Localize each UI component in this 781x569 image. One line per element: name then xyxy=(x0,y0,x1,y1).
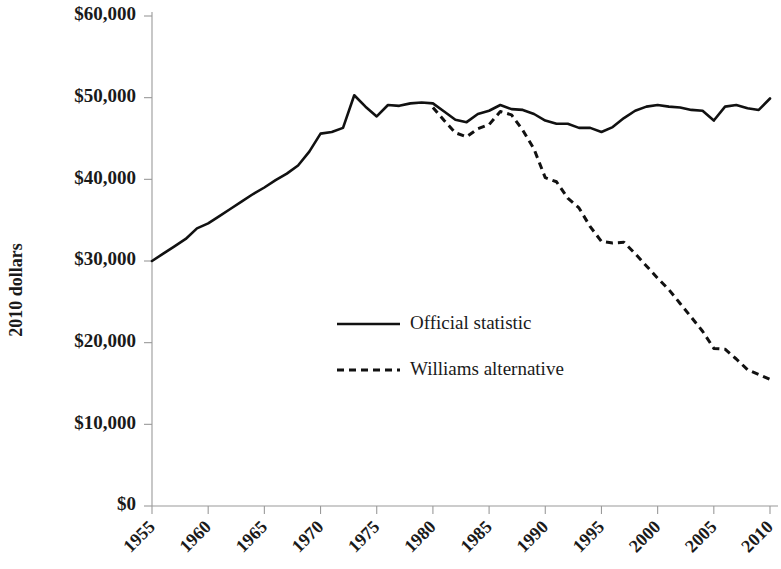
x-axis-tick-label: 2005 xyxy=(681,517,721,557)
legend-label-williams-alternative: Williams alternative xyxy=(410,358,564,379)
x-axis-tick-label: 1965 xyxy=(232,517,272,557)
x-axis-tick-label: 1970 xyxy=(288,517,328,557)
x-axis-tick-label: 2010 xyxy=(737,517,777,557)
y-axis-tick-label: $10,000 xyxy=(74,412,136,433)
y-axis-labels: $0$10,000$20,000$30,000$40,000$50,000$60… xyxy=(74,3,136,514)
x-axis-labels: 1955196019651970197519801985199019952000… xyxy=(119,517,777,557)
chart-page: $0$10,000$20,000$30,000$40,000$50,000$60… xyxy=(0,0,781,569)
y-axis-tick-label: $40,000 xyxy=(74,167,136,188)
y-axis-tick-label: $0 xyxy=(117,493,136,514)
legend-label-official-statistic: Official statistic xyxy=(410,312,532,333)
y-axis-tick-label: $50,000 xyxy=(74,85,136,106)
y-axis-tick-label: $20,000 xyxy=(74,330,136,351)
x-axis-tick-label: 1955 xyxy=(119,517,159,557)
x-axis-tick-label: 1995 xyxy=(569,517,609,557)
chart-legend: Official statistic Williams alternative xyxy=(337,312,564,379)
x-axis-tick-label: 1985 xyxy=(456,517,496,557)
series-official-statistic-line xyxy=(152,95,770,261)
x-axis-tick-label: 1990 xyxy=(513,517,553,557)
y-axis-tick-label: $60,000 xyxy=(74,3,136,24)
y-axis-title: 2010 dollars xyxy=(6,243,26,337)
x-axis-tick-group xyxy=(152,506,770,514)
y-axis-tick-label: $30,000 xyxy=(74,248,136,269)
x-axis-tick-label: 1975 xyxy=(344,517,384,557)
series-williams-alternative-line xyxy=(433,107,770,379)
x-axis-tick-label: 1980 xyxy=(400,517,440,557)
x-axis-tick-label: 2000 xyxy=(625,517,665,557)
x-axis-tick-label: 1960 xyxy=(175,517,215,557)
line-chart: $0$10,000$20,000$30,000$40,000$50,000$60… xyxy=(0,0,781,569)
